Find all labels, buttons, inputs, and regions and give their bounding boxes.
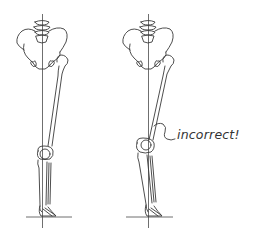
left-skeleton-figure: [17, 14, 72, 228]
annotation-leader-line: [154, 123, 175, 140]
left-pelvis: [17, 28, 67, 69]
leg-alignment-diagram: incorrect!: [0, 0, 253, 235]
left-spine-vertebrae: [34, 21, 50, 44]
incorrect-annotation-label: incorrect!: [177, 127, 240, 142]
diagram-illustration: [0, 0, 253, 235]
right-knee: [136, 138, 154, 153]
right-pelvis: [123, 28, 173, 69]
left-fibula: [48, 163, 51, 204]
left-knee: [37, 146, 53, 160]
right-spine-vertebrae: [140, 21, 156, 44]
left-femur: [48, 55, 68, 146]
right-tibia: [138, 153, 152, 212]
right-skeleton-figure: [123, 14, 175, 228]
right-foot: [145, 205, 162, 216]
left-foot: [39, 206, 56, 216]
